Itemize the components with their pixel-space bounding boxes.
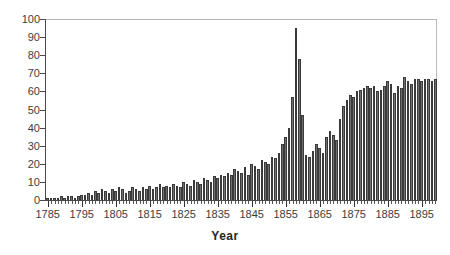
y-tick-mark [40, 55, 45, 56]
bar [284, 137, 287, 200]
x-tick-minor [381, 201, 382, 204]
x-tick-minor [51, 201, 52, 204]
bars-layer [46, 19, 437, 200]
bar [410, 84, 413, 200]
x-tick-minor [415, 201, 416, 204]
y-tick-mark [40, 91, 45, 92]
x-tick-minor [401, 201, 402, 204]
bar [288, 128, 291, 200]
bar [267, 164, 270, 200]
x-axis-title: Year [0, 229, 450, 243]
x-tick-minor [201, 201, 202, 204]
x-tick-minor [55, 201, 56, 204]
bar [291, 97, 294, 200]
x-tick-minor [143, 201, 144, 204]
x-tick-major [422, 201, 423, 207]
bar [206, 180, 209, 200]
x-tick-major [48, 201, 49, 207]
x-tick-minor [248, 201, 249, 204]
bar [247, 175, 250, 200]
bar [193, 180, 196, 200]
bar [53, 198, 56, 200]
x-tick-minor [357, 201, 358, 204]
bar [346, 100, 349, 200]
x-tick-minor [340, 201, 341, 204]
bar [264, 162, 267, 200]
x-tick-minor [204, 201, 205, 204]
bar [135, 189, 138, 200]
y-tick-mark [40, 37, 45, 38]
bar [315, 144, 318, 200]
x-tick-major [286, 201, 287, 207]
bar [403, 77, 406, 200]
x-tick-minor [242, 201, 243, 204]
x-tick-minor [432, 201, 433, 204]
x-tick-minor [289, 201, 290, 204]
bar [121, 189, 124, 200]
bar [172, 184, 175, 200]
x-tick-minor [140, 201, 141, 204]
bar [230, 175, 233, 200]
bar [77, 196, 80, 200]
bar [397, 86, 400, 200]
x-tick-minor [350, 201, 351, 204]
x-tick-major [354, 201, 355, 207]
bar [434, 79, 437, 200]
x-tick-minor [92, 201, 93, 204]
bar [125, 193, 128, 200]
bar [237, 171, 240, 200]
bar [70, 196, 73, 200]
bar [182, 182, 185, 200]
bar [216, 178, 219, 200]
bar [359, 90, 362, 200]
bar [352, 97, 355, 200]
x-tick-label: 1895 [402, 208, 442, 221]
x-tick-minor [160, 201, 161, 204]
bar [114, 191, 117, 200]
x-tick-minor [245, 201, 246, 204]
bar [199, 184, 202, 200]
y-tick-mark [40, 19, 45, 20]
x-tick-minor [214, 201, 215, 204]
x-tick-minor [347, 201, 348, 204]
bar [400, 88, 403, 200]
bar [383, 86, 386, 200]
bar [322, 153, 325, 200]
bar [196, 182, 199, 200]
bar [390, 84, 393, 200]
bar [142, 187, 145, 200]
bar [369, 88, 372, 200]
x-tick-minor [384, 201, 385, 204]
x-tick-minor [310, 201, 311, 204]
x-tick-minor [65, 201, 66, 204]
y-tick-mark [40, 146, 45, 147]
bar [213, 176, 216, 200]
x-tick-minor [364, 201, 365, 204]
bar [318, 148, 321, 200]
x-tick-minor [333, 201, 334, 204]
x-tick-minor [58, 201, 59, 204]
x-tick-minor [78, 201, 79, 204]
x-tick-major [116, 201, 117, 207]
y-tick-mark [40, 182, 45, 183]
x-tick-minor [265, 201, 266, 204]
bar-chart: 0102030405060708090100 17851795180518151… [0, 0, 450, 255]
x-tick-minor [180, 201, 181, 204]
bar [145, 189, 148, 200]
x-tick-minor [211, 201, 212, 204]
bar [210, 182, 213, 200]
x-tick-minor [330, 201, 331, 204]
x-tick-minor [75, 201, 76, 204]
x-tick-minor [112, 201, 113, 204]
bar [332, 135, 335, 200]
y-tick-mark [40, 110, 45, 111]
bar [57, 198, 60, 200]
x-tick-minor [303, 201, 304, 204]
bar [101, 189, 104, 200]
y-tick-label: 0 [6, 195, 40, 206]
x-tick-minor [279, 201, 280, 204]
x-tick-minor [282, 201, 283, 204]
y-tick-mark [40, 164, 45, 165]
x-tick-minor [119, 201, 120, 204]
x-tick-major [150, 201, 151, 207]
